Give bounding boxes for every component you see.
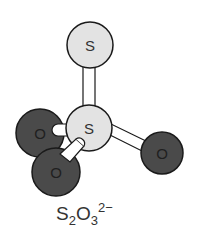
atom-label-o-left: O <box>34 125 46 142</box>
chemical-formula: S2O32− <box>56 203 113 225</box>
atom-o-right: O <box>141 132 183 174</box>
atom-label-o-right: O <box>156 145 168 162</box>
bond-s-s <box>83 64 95 108</box>
formula-subscript-o: 3 <box>91 213 98 228</box>
atom-label-o-bottom: O <box>50 164 62 181</box>
formula-element-o: O <box>76 203 91 224</box>
atom-label-s-center: S <box>84 120 94 137</box>
formula-element-s: S <box>56 203 69 224</box>
formula-subscript-s: 2 <box>69 213 76 228</box>
atom-label-s-top: S <box>85 37 95 54</box>
atom-s-top: S <box>67 22 113 68</box>
formula-charge: 2− <box>98 200 113 215</box>
